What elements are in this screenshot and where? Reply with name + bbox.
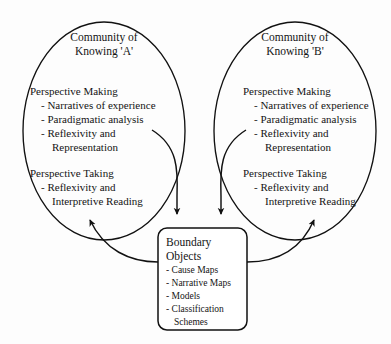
- community-b-making-item-2: - Reflexivity and: [254, 127, 329, 140]
- community-a-making-item-1: - Paradigmatic analysis: [41, 113, 144, 126]
- community-b-taking-item-0: - Reflexivity and: [254, 181, 329, 194]
- community-a-making-heading: Perspective Making: [30, 85, 118, 98]
- community-b-making-item-1: - Paradigmatic analysis: [254, 113, 357, 126]
- boundary-objects-item-4: Schemes: [174, 317, 208, 329]
- community-b-making-item-3: Representation: [265, 141, 331, 154]
- boundary-objects-item-0: - Cause Maps: [166, 265, 218, 277]
- community-a-title-line2: Knowing 'A': [29, 45, 179, 58]
- community-a-making-item-0: - Narratives of experience: [41, 99, 156, 112]
- community-b-taking-heading: Perspective Taking: [243, 167, 327, 180]
- boundary-objects-title-line2: Objects: [166, 250, 201, 263]
- community-a-taking-item-0: - Reflexivity and: [41, 181, 116, 194]
- boundary-objects-title-line1: Boundary: [166, 236, 211, 249]
- diagram-canvas: Community of Knowing 'A' Perspective Mak…: [0, 0, 391, 344]
- community-b-title-line2: Knowing 'B': [220, 45, 370, 58]
- boundary-objects-item-2: - Models: [166, 291, 200, 303]
- boundary-objects-item-1: - Narrative Maps: [166, 278, 231, 290]
- community-b-taking-item-1: Interpretive Reading: [265, 195, 356, 208]
- connector-boundary-objects-to-b: [247, 220, 314, 262]
- community-a-making-item-3: Representation: [52, 141, 118, 154]
- community-b-title-line1: Community of: [220, 31, 370, 44]
- community-a-taking-heading: Perspective Taking: [30, 167, 114, 180]
- community-b-making-item-0: - Narratives of experience: [254, 99, 369, 112]
- connector-boundary-objects-to-a: [90, 220, 158, 262]
- community-a-title-line1: Community of: [29, 31, 179, 44]
- community-b-making-heading: Perspective Making: [243, 85, 331, 98]
- community-a-taking-item-1: Interpretive Reading: [52, 195, 143, 208]
- boundary-objects-item-3: - Classification: [166, 304, 224, 316]
- connector-a-to-boundary-objects: [152, 130, 177, 214]
- community-a-making-item-2: - Reflexivity and: [41, 127, 116, 140]
